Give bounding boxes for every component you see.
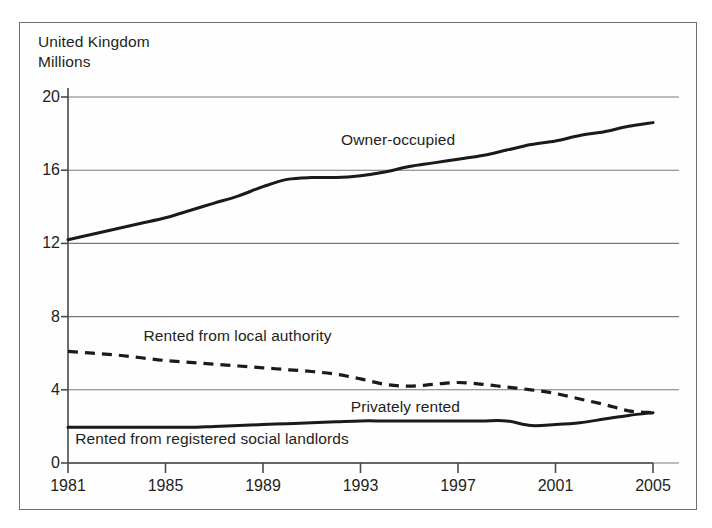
figure-root: United Kingdom Millions 0481216201981198… [0, 0, 712, 528]
x-axis-tick-label-1997: 1997 [440, 477, 476, 495]
chart-region-label: United Kingdom [38, 32, 150, 52]
y-axis-tick-label-12: 12 [42, 234, 60, 252]
series-label-0: Owner-occupied [341, 131, 455, 149]
x-axis-tick-label-2005: 2005 [635, 477, 671, 495]
y-axis-tick-label-20: 20 [42, 88, 60, 106]
y-axis-tick-label-16: 16 [42, 161, 60, 179]
y-axis-tick-label-4: 4 [51, 381, 60, 399]
y-axis-tick-label-8: 8 [51, 308, 60, 326]
x-axis-tick-label-1981: 1981 [50, 477, 86, 495]
x-axis-tick-label-1985: 1985 [148, 477, 184, 495]
chart-header: United Kingdom Millions [38, 32, 150, 73]
x-axis-tick-label-2001: 2001 [538, 477, 574, 495]
series-label-2: Privately rented [351, 398, 460, 416]
x-axis-tick-label-1989: 1989 [245, 477, 281, 495]
y-axis-tick-label-0: 0 [51, 454, 60, 472]
series-label-3: Rented from registered social landlords [75, 430, 349, 448]
chart-units-label: Millions [38, 52, 150, 72]
series-label-1: Rented from local authority [144, 327, 332, 345]
x-axis-tick-label-1993: 1993 [343, 477, 379, 495]
